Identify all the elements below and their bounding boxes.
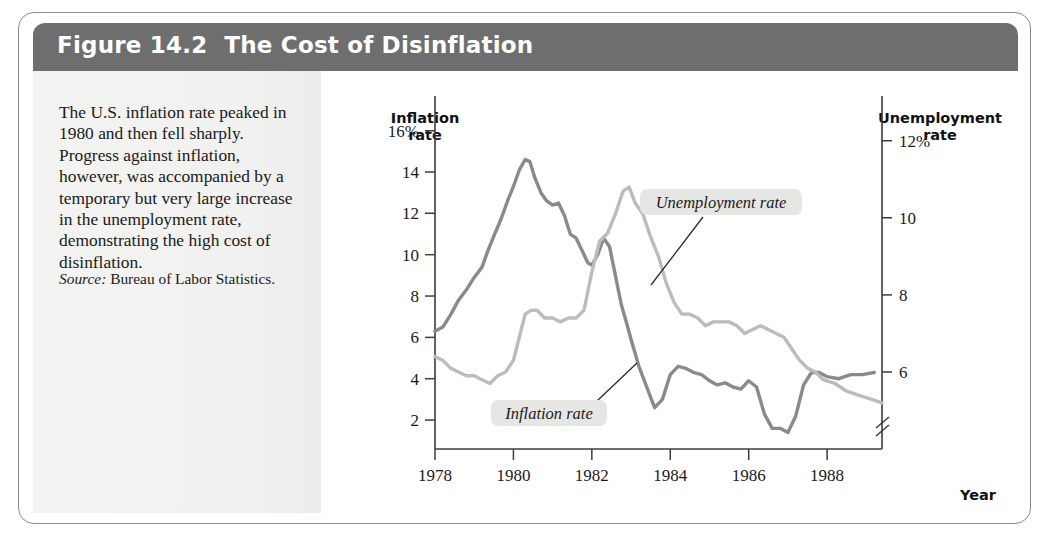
figure-title: The Cost of Disinflation xyxy=(224,32,533,58)
disinflation-line-chart: Inflation rate Unemployment rate Year 16… xyxy=(321,71,1018,513)
x-tick-label: 1980 xyxy=(496,466,530,485)
annotation-label: Inflation rate xyxy=(504,404,593,423)
source-label: Source: xyxy=(59,270,106,287)
figure-number: Figure 14.2 xyxy=(57,32,207,58)
chart-plot-area: Inflation rate Unemployment rate Year 16… xyxy=(321,71,1018,513)
caption-source: Source: Bureau of Labor Statistics. xyxy=(59,269,309,288)
x-axis-ticks: 197819801982198419861988 xyxy=(418,449,844,485)
left-tick-label: 2 xyxy=(411,411,420,430)
figure-header-text: Figure 14.2 The Cost of Disinflation xyxy=(57,32,533,58)
right-axis-title-line1: Unemployment xyxy=(878,110,1002,126)
figure-frame: Figure 14.2 The Cost of Disinflation The… xyxy=(18,12,1031,524)
left-tick-label: 4 xyxy=(411,370,420,389)
axis-lines xyxy=(435,96,882,449)
left-tick-label: 10 xyxy=(402,246,419,265)
x-tick-label: 1982 xyxy=(575,466,609,485)
x-axis-title: Year xyxy=(959,487,997,503)
right-axis-ticks: 12%1086 xyxy=(876,132,930,436)
figure-header-bar: Figure 14.2 The Cost of Disinflation xyxy=(33,23,1018,71)
x-tick-label: 1988 xyxy=(810,466,844,485)
left-tick-label: 6 xyxy=(411,328,420,347)
left-tick-label: 14 xyxy=(402,163,420,182)
left-tick-label: 16% xyxy=(388,122,419,141)
left-tick-label: 8 xyxy=(411,287,420,306)
left-axis-ticks: 16%1412108642 xyxy=(388,122,435,430)
left-tick-label: 12 xyxy=(402,204,419,223)
caption-panel: The U.S. inflation rate peaked in 1980 a… xyxy=(33,71,321,513)
right-tick-label: 8 xyxy=(899,286,908,305)
right-tick-label: 6 xyxy=(899,363,908,382)
right-tick-label: 10 xyxy=(899,209,916,228)
x-tick-label: 1978 xyxy=(418,466,452,485)
right-tick-label: 12% xyxy=(899,132,930,151)
caption-text: The U.S. inflation rate peaked in 1980 a… xyxy=(59,102,302,273)
source-text: Bureau of Labor Statistics. xyxy=(110,270,275,287)
x-tick-label: 1984 xyxy=(653,466,688,485)
inflation-rate-annotation: Inflation rate xyxy=(491,363,637,426)
x-tick-label: 1986 xyxy=(732,466,766,485)
annotation-label: Unemployment rate xyxy=(656,193,787,212)
